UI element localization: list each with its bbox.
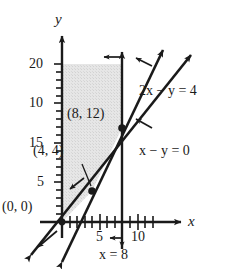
x-tick-label-10: 10 [131,230,145,244]
equation-label-x-equals-8: x = 8 [99,248,128,262]
y-axis [54,36,62,238]
x-tick-label-5: 5 [96,230,103,244]
y-axis-label: y [55,12,62,27]
direction-arrow-line-x-minus-y [136,119,152,128]
direction-arrow-line-2x-minus-y [136,58,152,66]
equation-label-x-minus-y: x − y = 0 [139,144,190,158]
equation-label-2x-minus-y: 2x − y = 4 [139,84,197,98]
vertex-label-8-12: (8, 12) [67,107,104,121]
x-axis-label: x [188,214,195,229]
y-tick-label-5: 5 [37,175,44,189]
vertex-label-origin: (0, 0) [2,200,32,214]
y-tick-label-10: 10 [29,96,43,110]
direction-arrow-x-equals-8-bottom [110,232,122,247]
vertex-label-4-4: (4, 4) [33,144,63,158]
y-tick-label-20: 20 [29,57,43,71]
feasible-region-chart: y x 20 15 10 5 5 10 (0, 0) (4, 4) (8, 12… [0,0,230,269]
